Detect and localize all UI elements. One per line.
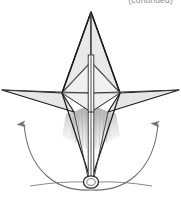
figure-root: (continued) <box>0 0 181 198</box>
ground-line-right <box>98 182 152 186</box>
pivot-inner-ring <box>87 179 95 186</box>
ground-line-left <box>30 182 84 186</box>
deployable-structure-diagram <box>0 0 181 198</box>
